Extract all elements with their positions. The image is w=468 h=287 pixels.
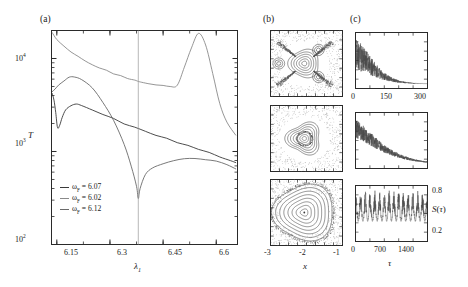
panel-c-content [356, 33, 428, 242]
panel-c-xtick-top-1: 150 [380, 92, 392, 101]
panel-c-ylabel: S(τ) [432, 204, 446, 214]
panel-c-ytick-high: 0.8 [432, 186, 442, 195]
figure-root: (a) 102 103 104 T 6.15 6.3 6.45 6.6 λ1 ω… [0, 0, 468, 287]
signal-2 [356, 191, 428, 222]
panel-c-xtick-top-2: 300 [414, 92, 426, 101]
panel-c-ytick-low: 0.2 [432, 226, 442, 235]
panel-c-xtick-top-0: 0 [351, 92, 355, 101]
panel-c-xtick-bottom-1: 700 [374, 245, 386, 254]
panel-c-xtick-bottom-0: 0 [351, 245, 355, 254]
trace [356, 191, 428, 222]
signal-0 [356, 40, 428, 84]
signal-1 [356, 121, 428, 163]
panel-c-xlabel: τ [388, 258, 391, 268]
panel-c-plot [0, 0, 468, 287]
panel-c-frame-bottom [356, 186, 428, 242]
trace [356, 40, 428, 84]
panel-c-xtick-bottom-2: 1400 [398, 245, 414, 254]
trace [356, 121, 428, 163]
